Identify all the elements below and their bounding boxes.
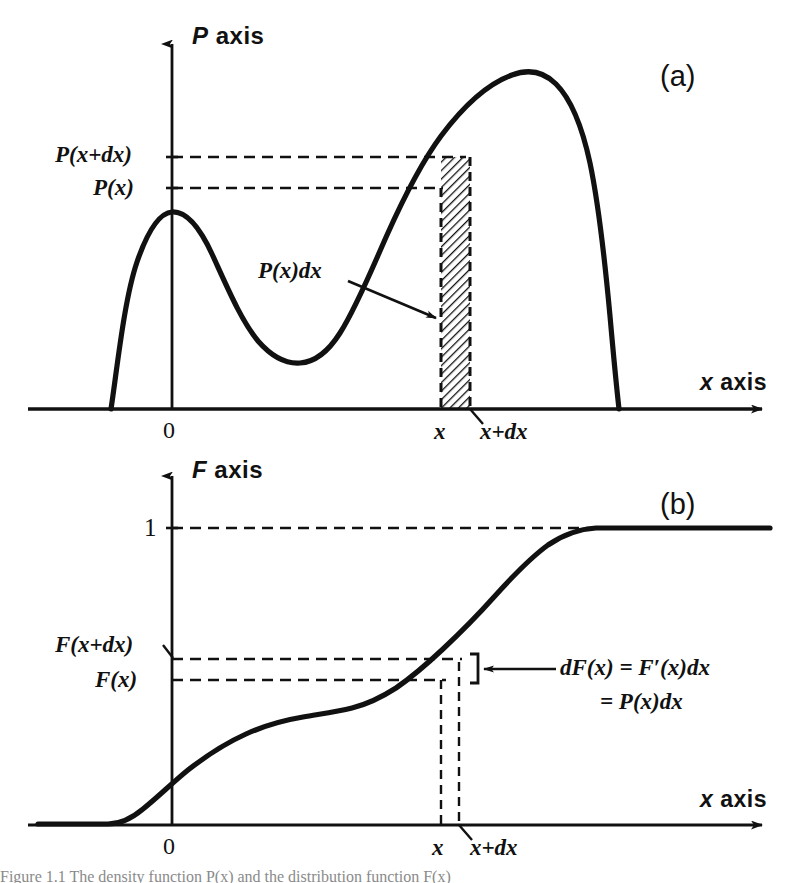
caption-fragment: Figure 1.1 The density function P(x) and… (0, 868, 800, 883)
pdx-annotation-arrow (348, 281, 436, 318)
p-axis-label: P axis (192, 24, 264, 48)
hatched-strip-pdx (441, 157, 470, 409)
f-axis-label: F axis (192, 458, 263, 482)
panel-tag-a: (a) (660, 62, 695, 91)
origin-label-b: 0 (163, 834, 175, 858)
y-tick-label-F-x-plus-dx: F(x+dx) (55, 633, 133, 656)
panel-distribution: F axis (b) 1 F(x+dx) F(x) dF(x) = F′(x)d… (0, 440, 800, 883)
figure-root: P axis (a) P(x+dx) P(x) P(x)dx x axis 0 … (0, 0, 800, 883)
df-bracket (470, 654, 478, 683)
x-axis-label-b: x axis (700, 788, 767, 811)
x-axis-label-a: x axis (700, 371, 767, 394)
annotation-p-x-dx: P(x)dx (258, 259, 322, 282)
y-tick-label-P-x-plus-dx: P(x+dx) (55, 143, 132, 166)
origin-label-a: 0 (163, 418, 175, 442)
density-curve (111, 72, 619, 409)
y-tick-label-F-x: F(x) (95, 668, 137, 691)
panel-tag-b: (b) (660, 490, 695, 519)
panel-density: P axis (a) P(x+dx) P(x) P(x)dx x axis 0 … (0, 0, 800, 450)
x-tick-label-x-b: x (432, 836, 444, 859)
annotation-dF-line-1: dF(x) = F′(x)dx (560, 656, 710, 679)
annotation-dF-line-2: = P(x)dx (600, 690, 683, 713)
y-tick-label-one: 1 (144, 515, 157, 540)
y-tick-label-P-x: P(x) (93, 176, 134, 199)
x-tick-label-x-plus-dx-b: x+dx (470, 836, 518, 859)
